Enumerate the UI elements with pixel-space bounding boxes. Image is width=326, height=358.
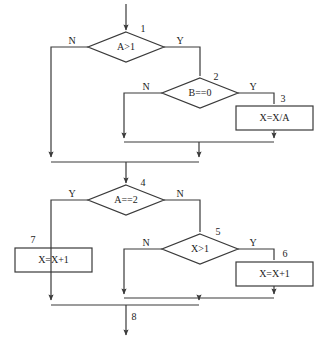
edge-n4-no-right	[164, 200, 200, 232]
node-label-n5: X>1	[191, 243, 209, 254]
step-number-n4: 4	[141, 177, 146, 188]
edge-n5-yes-right	[238, 249, 274, 260]
branch-yes-n5: Y	[249, 237, 256, 248]
edge-n1-no-left	[51, 47, 88, 157]
branch-no-n1: N	[68, 35, 75, 46]
step-number-n2: 2	[214, 71, 219, 82]
branch-yes-n1: Y	[176, 35, 183, 46]
node-n6-rect[interactable]: X=X+1	[236, 262, 313, 286]
step-number-n5: 5	[216, 226, 221, 237]
node-label-n3: X=X/A	[259, 112, 290, 123]
flowchart-diagram: A>1B==0X=X/AA==2X>1X=X+1X=X+1 1YN2YN34YN…	[0, 0, 326, 358]
edge-layer	[51, 4, 274, 335]
branch-no-n4: N	[176, 188, 183, 199]
edge-n1-yes-right	[164, 47, 200, 76]
node-label-n4: A==2	[114, 194, 138, 205]
node-label-n6: X=X+1	[259, 268, 290, 279]
edge-n5-no-left	[124, 249, 162, 294]
node-label-n7: X=X+1	[38, 254, 69, 265]
node-layer: A>1B==0X=X/AA==2X>1X=X+1X=X+1	[15, 32, 313, 286]
step-number-n7: 7	[31, 234, 36, 245]
node-n3-rect[interactable]: X=X/A	[236, 106, 313, 130]
exit-step-number: 8	[132, 311, 137, 322]
edge-n2-yes-right	[238, 93, 274, 104]
node-label-n1: A>1	[117, 41, 135, 52]
node-n2-diamond[interactable]: B==0	[162, 78, 238, 108]
node-n4-diamond[interactable]: A==2	[88, 185, 164, 215]
flowchart-canvas: A>1B==0X=X/AA==2X>1X=X+1X=X+1 1YN2YN34YN…	[0, 0, 326, 358]
node-n1-diamond[interactable]: A>1	[88, 32, 164, 62]
branch-no-n5: N	[142, 237, 149, 248]
node-n7-rect[interactable]: X=X+1	[15, 248, 92, 272]
edge-n4-yes-left	[51, 200, 88, 300]
node-label-n2: B==0	[189, 87, 212, 98]
step-number-n6: 6	[283, 248, 288, 259]
annotation-layer: 1YN2YN34YN5YN678	[31, 23, 288, 322]
branch-yes-n4: Y	[68, 188, 75, 199]
step-number-n1: 1	[141, 23, 146, 34]
step-number-n3: 3	[281, 93, 286, 104]
branch-no-n2: N	[142, 81, 149, 92]
branch-yes-n2: Y	[249, 81, 256, 92]
edge-n2-no-left	[124, 93, 162, 138]
node-n5-diamond[interactable]: X>1	[162, 234, 238, 264]
